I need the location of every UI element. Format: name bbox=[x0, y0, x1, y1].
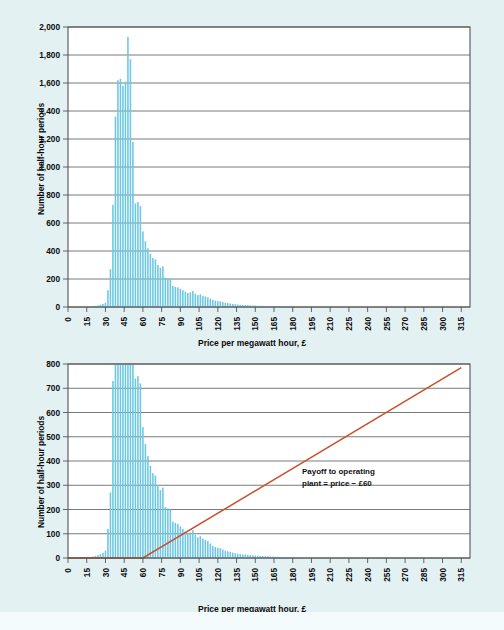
x-tick-label: 60 bbox=[138, 568, 148, 578]
chart-top-x-axis-label: Price per megawatt hour, £ bbox=[198, 338, 306, 348]
x-tick-label: 165 bbox=[269, 568, 279, 582]
y-tick-label: 2,000 bbox=[39, 22, 60, 32]
page-bottom-margin bbox=[0, 612, 504, 630]
y-tick-label: 600 bbox=[46, 218, 60, 228]
y-tick-label: 600 bbox=[46, 408, 60, 418]
y-tick-label: 400 bbox=[46, 456, 60, 466]
x-tick-label: 315 bbox=[456, 317, 466, 331]
y-tick-label: 0 bbox=[55, 302, 60, 312]
chart-top-histogram: 02004006008001,0001,2001,4001,6001,8002,… bbox=[0, 0, 504, 350]
x-tick-label: 105 bbox=[194, 317, 204, 331]
payoff-annotation-line2: plant = price − £60 bbox=[302, 478, 375, 490]
y-tick-label: 200 bbox=[46, 274, 60, 284]
x-tick-label: 30 bbox=[101, 317, 111, 327]
x-tick-label: 195 bbox=[307, 568, 317, 582]
x-tick-label: 45 bbox=[119, 317, 129, 327]
x-tick-label: 210 bbox=[325, 568, 335, 582]
x-tick-label: 0 bbox=[63, 317, 73, 322]
x-tick-label: 135 bbox=[232, 568, 242, 582]
x-tick-label: 240 bbox=[363, 317, 373, 331]
x-tick-label: 300 bbox=[438, 568, 448, 582]
figure-page: 02004006008001,0001,2001,4001,6001,8002,… bbox=[0, 0, 504, 630]
x-tick-label: 270 bbox=[400, 317, 410, 331]
x-tick-label: 60 bbox=[138, 317, 148, 327]
x-tick-label: 240 bbox=[363, 568, 373, 582]
y-tick-label: 0 bbox=[55, 553, 60, 563]
x-tick-label: 195 bbox=[307, 317, 317, 331]
x-tick-label: 225 bbox=[344, 568, 354, 582]
chart-bottom-histogram-with-payoff: 0100200300400500600700800015304560759010… bbox=[0, 350, 504, 612]
y-tick-label: 100 bbox=[46, 529, 60, 539]
x-tick-label: 75 bbox=[157, 317, 167, 327]
x-tick-label: 90 bbox=[176, 317, 186, 327]
y-tick-label: 200 bbox=[46, 505, 60, 515]
x-tick-label: 180 bbox=[288, 568, 298, 582]
x-tick-label: 45 bbox=[119, 568, 129, 578]
x-tick-label: 150 bbox=[250, 568, 260, 582]
x-tick-label: 120 bbox=[213, 317, 223, 331]
y-tick-label: 400 bbox=[46, 246, 60, 256]
y-tick-label: 800 bbox=[46, 359, 60, 369]
x-tick-label: 15 bbox=[82, 317, 92, 327]
chart-bottom-svg: 0100200300400500600700800015304560759010… bbox=[0, 350, 504, 612]
x-tick-label: 0 bbox=[63, 568, 73, 573]
x-tick-label: 210 bbox=[325, 317, 335, 331]
y-tick-label: 800 bbox=[46, 190, 60, 200]
payoff-annotation-line1: Payoff to operating bbox=[302, 466, 375, 478]
y-tick-label: 700 bbox=[46, 383, 60, 393]
x-tick-label: 300 bbox=[438, 317, 448, 331]
x-tick-label: 105 bbox=[194, 568, 204, 582]
x-tick-label: 270 bbox=[400, 568, 410, 582]
x-tick-label: 15 bbox=[82, 568, 92, 578]
chart-top-y-axis-label: Number of half-hour periods bbox=[36, 103, 46, 215]
x-tick-label: 285 bbox=[419, 317, 429, 331]
chart-top-svg: 02004006008001,0001,2001,4001,6001,8002,… bbox=[0, 0, 504, 350]
x-tick-label: 90 bbox=[176, 568, 186, 578]
x-tick-label: 135 bbox=[232, 317, 242, 331]
y-tick-label: 1,600 bbox=[39, 78, 60, 88]
x-tick-label: 75 bbox=[157, 568, 167, 578]
y-tick-label: 1,800 bbox=[39, 50, 60, 60]
x-tick-label: 180 bbox=[288, 317, 298, 331]
payoff-annotation: Payoff to operating plant = price − £60 bbox=[302, 466, 375, 490]
x-tick-label: 120 bbox=[213, 568, 223, 582]
x-tick-label: 150 bbox=[250, 317, 260, 331]
x-tick-label: 30 bbox=[101, 568, 111, 578]
chart-bottom-y-axis-label: Number of half-hour periods bbox=[36, 416, 46, 528]
x-tick-label: 255 bbox=[382, 317, 392, 331]
x-tick-label: 285 bbox=[419, 568, 429, 582]
y-tick-label: 500 bbox=[46, 432, 60, 442]
x-tick-label: 225 bbox=[344, 317, 354, 331]
x-tick-label: 315 bbox=[456, 568, 466, 582]
x-tick-label: 165 bbox=[269, 317, 279, 331]
x-tick-label: 255 bbox=[382, 568, 392, 582]
y-tick-label: 300 bbox=[46, 480, 60, 490]
